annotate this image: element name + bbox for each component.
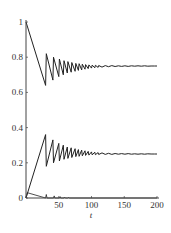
y-tick-label: 0.8 [12,52,24,62]
y-tick-label: 0.2 [12,158,23,168]
y-tick-label: 0 [19,193,24,203]
x-axis-label: t [90,210,93,220]
x-tick-label: 200 [150,200,164,210]
y-tick-label: 0.6 [12,87,24,97]
x-tick-label: 150 [118,200,132,210]
line-chart: 50100150200 00.20.40.60.81 t [0,0,171,233]
series-lower-line [26,135,157,198]
y-tick-label: 0.4 [12,123,24,133]
y-tick-label: 1 [19,17,24,27]
x-tick-label: 50 [54,200,64,210]
series-upper-line [26,22,157,85]
x-tick-label: 100 [85,200,99,210]
series-layer [26,22,157,198]
